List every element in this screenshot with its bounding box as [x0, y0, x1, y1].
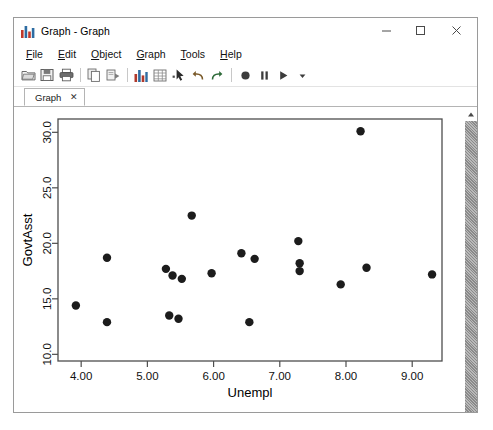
- dropdown-arrow-icon[interactable]: [293, 66, 311, 84]
- undo-icon[interactable]: [189, 66, 207, 84]
- open-folder-icon[interactable]: [19, 66, 37, 84]
- data-point[interactable]: [72, 301, 80, 309]
- copy-icon[interactable]: [85, 66, 103, 84]
- y-tick-label: 20.0: [41, 232, 53, 254]
- y-axis-label: GovtAsst: [20, 213, 35, 266]
- y-tick-label: 10.0: [41, 343, 53, 365]
- scrollbar-track[interactable]: [465, 121, 477, 412]
- data-point[interactable]: [428, 270, 436, 278]
- toolbar-separator: [127, 68, 128, 82]
- x-axis-label: Unempl: [228, 385, 273, 400]
- graph-window: Graph - Graph File Edit Object Graph Too…: [13, 17, 478, 413]
- x-tick-label: 4.00: [70, 370, 92, 382]
- data-point[interactable]: [103, 254, 111, 262]
- data-point[interactable]: [168, 271, 176, 279]
- y-tick-label: 30.0: [41, 121, 53, 143]
- data-point[interactable]: [162, 265, 170, 273]
- pause-icon[interactable]: [255, 66, 273, 84]
- data-point[interactable]: [362, 264, 370, 272]
- data-point[interactable]: [188, 211, 196, 219]
- y-tick-label: 25.0: [41, 177, 53, 199]
- print-icon[interactable]: [57, 66, 75, 84]
- scroll-up-arrow-icon[interactable]: [464, 107, 477, 121]
- menu-item-graph[interactable]: Graph: [136, 48, 165, 60]
- pointer-select-icon[interactable]: [170, 66, 188, 84]
- data-point[interactable]: [337, 280, 345, 288]
- minimize-icon: [381, 25, 392, 36]
- data-point[interactable]: [165, 311, 173, 319]
- scatter-plot[interactable]: 4.005.006.007.008.009.00Unempl10.015.020…: [14, 107, 464, 412]
- data-points[interactable]: [72, 127, 437, 326]
- menu-item-edit[interactable]: Edit: [58, 48, 76, 60]
- tab-strip: Graph ✕: [14, 87, 477, 107]
- toolbar-separator: [80, 68, 81, 82]
- graph-sheet: 4.005.006.007.008.009.00Unempl10.015.020…: [14, 107, 464, 412]
- menu-item-help[interactable]: Help: [220, 48, 242, 60]
- menu-item-tools[interactable]: Tools: [181, 48, 206, 60]
- window-title: Graph - Graph: [41, 25, 110, 37]
- data-point[interactable]: [237, 249, 245, 257]
- x-axis: 4.005.006.007.008.009.00: [70, 361, 423, 382]
- data-point[interactable]: [294, 237, 302, 245]
- maximize-icon: [415, 25, 426, 36]
- data-point[interactable]: [178, 275, 186, 283]
- graph-chart-icon[interactable]: [132, 66, 150, 84]
- data-point[interactable]: [207, 269, 215, 277]
- bar-chart-icon: [21, 25, 35, 38]
- tab-close-icon[interactable]: ✕: [70, 93, 78, 102]
- data-point[interactable]: [250, 255, 258, 263]
- menu-item-file[interactable]: File: [26, 48, 43, 60]
- x-tick-label: 5.00: [136, 370, 158, 382]
- close-button[interactable]: [441, 18, 471, 43]
- data-point[interactable]: [356, 127, 364, 135]
- y-tick-label: 15.0: [41, 288, 53, 310]
- y-axis: 10.015.020.025.030.0: [41, 121, 58, 365]
- x-tick-label: 8.00: [335, 370, 357, 382]
- title-bar: Graph - Graph: [14, 18, 477, 44]
- data-point[interactable]: [174, 315, 182, 323]
- menu-bar: File Edit Object Graph Tools Help: [14, 44, 477, 64]
- vertical-scrollbar[interactable]: [463, 107, 477, 412]
- client-area: 4.005.006.007.008.009.00Unempl10.015.020…: [14, 107, 477, 412]
- maximize-button[interactable]: [405, 18, 435, 43]
- record-icon[interactable]: [236, 66, 254, 84]
- x-tick-label: 6.00: [202, 370, 224, 382]
- tab-graph-label: Graph: [35, 92, 61, 103]
- data-point[interactable]: [245, 318, 253, 326]
- data-point[interactable]: [295, 267, 303, 275]
- menu-item-object[interactable]: Object: [91, 48, 121, 60]
- toolbar: [14, 64, 477, 87]
- tab-graph[interactable]: Graph ✕: [24, 88, 85, 106]
- minimize-button[interactable]: [371, 18, 401, 43]
- run-play-icon[interactable]: [274, 66, 292, 84]
- data-point[interactable]: [295, 259, 303, 267]
- data-sheet-icon[interactable]: [151, 66, 169, 84]
- x-tick-label: 9.00: [401, 370, 423, 382]
- data-point[interactable]: [103, 318, 111, 326]
- toolbar-separator: [231, 68, 232, 82]
- x-tick-label: 7.00: [269, 370, 291, 382]
- redo-icon[interactable]: [208, 66, 226, 84]
- paste-icon[interactable]: [104, 66, 122, 84]
- close-icon: [451, 25, 462, 36]
- save-disk-icon[interactable]: [38, 66, 56, 84]
